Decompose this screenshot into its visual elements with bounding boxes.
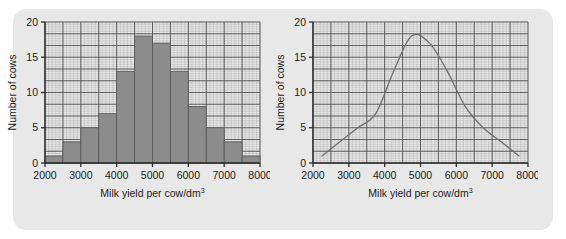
figure-container: 051015202000300040005000600070008000Milk… [0, 0, 566, 239]
histogram-bar [99, 114, 117, 163]
histogram-bar [206, 128, 224, 163]
y-axis-tick-label: 10 [294, 86, 306, 98]
y-axis-tick-label: 10 [26, 86, 38, 98]
y-axis-tick-label: 0 [300, 157, 306, 169]
y-axis-tick-label: 0 [32, 157, 38, 169]
frequency-polygon-svg: 051015202000300040005000600070008000Milk… [270, 0, 538, 221]
y-axis-tick-label: 20 [26, 16, 38, 28]
histogram-bar [170, 71, 188, 163]
x-axis-tick-label: 8000 [516, 169, 538, 181]
x-axis-tick-label: 8000 [248, 169, 270, 181]
x-axis-title-superscript: 3 [469, 186, 473, 195]
histogram-bar [188, 107, 206, 163]
x-axis-tick-label: 4000 [105, 169, 129, 181]
x-axis-title: Milk yield per cow/dm3 [368, 186, 472, 199]
histogram-svg: 051015202000300040005000600070008000Milk… [2, 0, 270, 221]
histogram-bar [81, 128, 99, 163]
x-axis-tick-label: 3000 [69, 169, 93, 181]
frequency-polygon-chart: 051015202000300040005000600070008000Milk… [270, 0, 538, 221]
histogram-bar [117, 71, 135, 163]
y-axis-title: Number of cows [274, 55, 286, 131]
histogram-bar [153, 43, 171, 163]
x-axis-tick-label: 7000 [480, 169, 504, 181]
x-axis-tick-label: 3000 [337, 169, 361, 181]
x-axis-tick-label: 4000 [373, 169, 397, 181]
x-axis-title-text: Milk yield per cow/dm [100, 187, 201, 199]
x-axis-tick-label: 5000 [409, 169, 433, 181]
y-axis-tick-label: 15 [26, 51, 38, 63]
x-axis-title-superscript: 3 [201, 186, 205, 195]
x-axis-title-text: Milk yield per cow/dm [368, 187, 469, 199]
x-axis-title: Milk yield per cow/dm3 [100, 186, 204, 199]
x-axis-tick-label: 2000 [33, 169, 57, 181]
x-axis-tick-label: 5000 [141, 169, 165, 181]
x-axis-tick-label: 6000 [445, 169, 469, 181]
y-axis-tick-label: 15 [294, 51, 306, 63]
histogram-chart: 051015202000300040005000600070008000Milk… [2, 0, 270, 221]
y-axis-tick-label: 20 [294, 16, 306, 28]
histogram-bar [45, 156, 63, 163]
histogram-bar [224, 142, 242, 163]
histogram-bar [242, 156, 260, 163]
x-axis-tick-label: 2000 [301, 169, 325, 181]
x-axis-tick-label: 6000 [177, 169, 201, 181]
y-axis-tick-label: 5 [300, 121, 306, 133]
y-axis-tick-label: 5 [32, 121, 38, 133]
histogram-bar [135, 36, 153, 163]
x-axis-tick-label: 7000 [212, 169, 236, 181]
y-axis-title: Number of cows [6, 55, 18, 131]
histogram-bar [63, 142, 81, 163]
